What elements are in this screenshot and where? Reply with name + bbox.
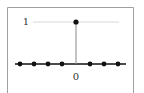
y-tick-label-1: 1 (23, 16, 29, 27)
marker-n3 (116, 62, 121, 67)
marker-n-2 (46, 62, 51, 67)
marker-n0 (73, 19, 78, 24)
marker-n-4 (18, 62, 23, 67)
marker-n-3 (32, 62, 37, 67)
marker-n2 (102, 62, 107, 67)
marker-n1 (88, 62, 93, 67)
stem-plot: 1 0 (0, 0, 144, 93)
stem-markers (18, 19, 121, 66)
x-tick-label-0: 0 (73, 71, 79, 82)
marker-n-1 (60, 62, 65, 67)
